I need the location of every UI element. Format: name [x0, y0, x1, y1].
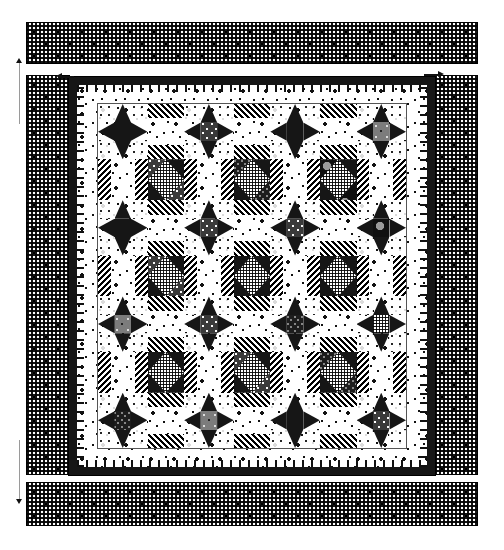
- sashing-center-print: [234, 118, 271, 145]
- sashing-center-print: [234, 215, 271, 242]
- star-corner-tr: [389, 200, 406, 218]
- grid-cell-pinwheel-r6-c4: [234, 352, 271, 393]
- star-corner-tl: [184, 104, 201, 122]
- star-corner-br: [131, 333, 148, 351]
- height-dimension-arrow-top: [16, 58, 22, 63]
- star-corner-tr: [303, 200, 320, 218]
- pinwheel-block: [234, 159, 271, 200]
- star-corner-tl: [98, 200, 115, 218]
- star-corner-bl: [184, 430, 201, 448]
- star-corner-tl: [357, 104, 374, 122]
- star-corner-tr: [131, 296, 148, 314]
- sawtooth-star-block: [357, 393, 407, 448]
- sashing-center-print: [197, 159, 221, 200]
- star-corner-bl: [357, 333, 374, 351]
- grid-cell-star-r1-c7: [357, 104, 407, 159]
- star-corner-tr: [303, 296, 320, 314]
- grid-cell-sash-h-r7-c4: [234, 393, 271, 448]
- grid-cell-sash-h-r5-c6: [320, 296, 357, 351]
- block-field: [97, 103, 407, 449]
- grid-cell-star-r1-c1: [98, 104, 148, 159]
- grid-cell-sash-h-r1-c4: [234, 104, 271, 159]
- star-corner-tl: [357, 200, 374, 218]
- sawtooth-star-block: [98, 296, 148, 351]
- horizontal-sashing-strip: [234, 296, 271, 351]
- grid-cell-sash-v-r2-c3: [184, 159, 234, 200]
- grid-cell-sash-h-r1-c6: [320, 104, 357, 159]
- grid-cell-sash-v-r4-c3: [184, 256, 234, 297]
- seam-arrow-head-right: [438, 71, 444, 77]
- horizontal-sashing-strip: [148, 393, 185, 448]
- star-corner-br: [389, 430, 406, 448]
- star-corner-br: [303, 141, 320, 159]
- sashing-center-print: [148, 407, 185, 434]
- star-corner-tr: [217, 393, 234, 411]
- star-corner-tl: [270, 104, 287, 122]
- sashing-center-print: [369, 352, 393, 393]
- grid-cell-pinwheel-r4-c2: [148, 256, 185, 297]
- star-corner-br: [217, 141, 234, 159]
- grid-cell-sash-v-r4-c1: [98, 256, 148, 297]
- star-corner-bl: [98, 333, 115, 351]
- star-center-square: [114, 219, 131, 237]
- grid-cell-sash-h-r7-c6: [320, 393, 357, 448]
- star-corner-bl: [357, 430, 374, 448]
- pinwheel-block: [234, 256, 271, 297]
- sashing-center-print: [369, 256, 393, 297]
- vertical-sashing-strip: [270, 352, 320, 393]
- sawtooth-star-block: [184, 200, 234, 255]
- horizontal-sashing-strip: [320, 200, 357, 255]
- star-corner-br: [389, 141, 406, 159]
- grid-cell-sash-h-r3-c6: [320, 200, 357, 255]
- star-center-square: [373, 122, 390, 140]
- grid-cell-star-r7-c1: [98, 393, 148, 448]
- grid-cell-sash-v-r6-c5: [270, 352, 320, 393]
- star-corner-tr: [303, 104, 320, 122]
- vertical-sashing-strip: [184, 256, 234, 297]
- star-corner-br: [217, 430, 234, 448]
- grid-cell-pinwheel-r4-c6: [320, 256, 357, 297]
- star-corner-bl: [98, 430, 115, 448]
- star-corner-tl: [184, 296, 201, 314]
- star-corner-tl: [98, 393, 115, 411]
- vertical-sashing-strip: [98, 352, 148, 393]
- star-center-square: [287, 411, 304, 429]
- horizontal-sashing-strip: [320, 104, 357, 159]
- grid-cell-sash-v-r6-c7: [357, 352, 407, 393]
- grid-cell-sash-h-r3-c4: [234, 200, 271, 255]
- star-corner-tl: [98, 296, 115, 314]
- star-corner-tr: [389, 104, 406, 122]
- star-corner-bl: [98, 141, 115, 159]
- star-corner-tr: [217, 104, 234, 122]
- horizontal-sashing-strip: [320, 296, 357, 351]
- star-corner-tl: [270, 393, 287, 411]
- star-center-square: [201, 315, 218, 333]
- sawtooth-star-block: [357, 104, 407, 159]
- sawtooth-star-block: [98, 104, 148, 159]
- sashing-center-print: [320, 407, 357, 434]
- grid-cell-pinwheel-r2-c2: [148, 159, 185, 200]
- scallop-edge-left: [77, 85, 84, 467]
- star-corner-tr: [217, 296, 234, 314]
- horizontal-sashing-strip: [234, 393, 271, 448]
- star-corner-br: [217, 333, 234, 351]
- vertical-sashing-strip: [270, 159, 320, 200]
- star-center-square: [373, 315, 390, 333]
- sawtooth-star-block: [184, 296, 234, 351]
- grid-cell-star-r3-c5: [270, 200, 320, 255]
- horizontal-sashing-strip: [234, 104, 271, 159]
- star-corner-bl: [184, 237, 201, 255]
- sashing-center-print: [369, 159, 393, 200]
- star-corner-br: [303, 430, 320, 448]
- horizontal-sashing-strip: [234, 200, 271, 255]
- sawtooth-star-block: [98, 200, 148, 255]
- top-binding-strip: [26, 22, 478, 64]
- star-center-square: [287, 219, 304, 237]
- grid-cell-sash-h-r7-c2: [148, 393, 185, 448]
- sawtooth-star-block: [184, 104, 234, 159]
- grid-cell-star-r1-c5: [270, 104, 320, 159]
- pinwheel-block: [320, 352, 357, 393]
- star-center-square: [287, 315, 304, 333]
- grid-cell-pinwheel-r6-c2: [148, 352, 185, 393]
- sashing-center-print: [148, 118, 185, 145]
